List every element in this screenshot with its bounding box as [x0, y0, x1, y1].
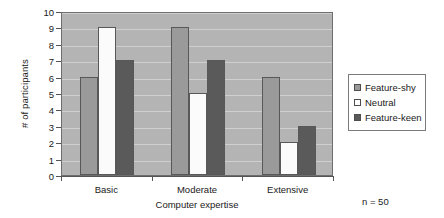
bar	[298, 126, 316, 175]
y-tick-mark	[56, 176, 61, 177]
legend-swatch-icon	[354, 99, 361, 106]
y-tick-label: 5	[30, 90, 54, 99]
bar	[171, 27, 189, 175]
plot-area	[61, 12, 333, 176]
y-tick-label: 9	[30, 24, 54, 33]
legend-swatch-icon	[354, 84, 361, 91]
y-tick-mark	[56, 12, 61, 13]
y-tick-label: 0	[30, 172, 54, 181]
y-tick-mark	[56, 94, 61, 95]
x-tick-mark	[242, 176, 243, 181]
y-axis-tick-labels: 109876543210	[30, 12, 54, 176]
chart-legend: Feature-shyNeutralFeature-keen	[348, 74, 426, 131]
legend-label: Feature-shy	[365, 83, 416, 93]
y-tick-label: 7	[30, 57, 54, 66]
bar	[280, 142, 298, 175]
legend-item: Feature-shy	[354, 80, 421, 95]
y-tick-mark	[56, 143, 61, 144]
x-tick-mark	[61, 176, 62, 181]
legend-label: Neutral	[365, 98, 396, 108]
bar	[98, 27, 116, 175]
bar-chart-figure: # of participants 109876543210 BasicMode…	[0, 0, 444, 218]
y-tick-label: 2	[30, 139, 54, 148]
y-tick-mark	[56, 78, 61, 79]
x-category-label: Extensive	[267, 184, 308, 195]
bar	[262, 77, 280, 175]
y-tick-mark	[56, 45, 61, 46]
x-axis-line	[61, 176, 333, 177]
y-tick-mark	[56, 110, 61, 111]
y-axis-title: # of participants	[19, 24, 30, 164]
legend-swatch-icon	[354, 114, 361, 121]
bar	[80, 77, 98, 175]
y-tick-label: 3	[30, 122, 54, 131]
bar	[189, 93, 207, 175]
y-tick-mark	[56, 160, 61, 161]
y-tick-label: 4	[30, 106, 54, 115]
x-tick-mark	[152, 176, 153, 181]
legend-item: Feature-keen	[354, 110, 421, 125]
bar	[207, 60, 225, 175]
y-tick-mark	[56, 127, 61, 128]
bar	[116, 60, 134, 175]
bars-layer	[62, 13, 332, 175]
sample-size-note: n = 50	[362, 196, 389, 207]
y-tick-label: 8	[30, 40, 54, 49]
y-tick-mark	[56, 28, 61, 29]
y-tick-label: 6	[30, 73, 54, 82]
x-category-label: Moderate	[177, 184, 217, 195]
y-tick-label: 1	[30, 155, 54, 164]
x-category-label: Basic	[95, 184, 118, 195]
x-tick-mark	[333, 176, 334, 181]
x-axis-title: Computer expertise	[61, 199, 333, 210]
y-tick-label: 10	[30, 8, 54, 17]
legend-item: Neutral	[354, 95, 421, 110]
y-tick-mark	[56, 61, 61, 62]
legend-label: Feature-keen	[365, 113, 422, 123]
